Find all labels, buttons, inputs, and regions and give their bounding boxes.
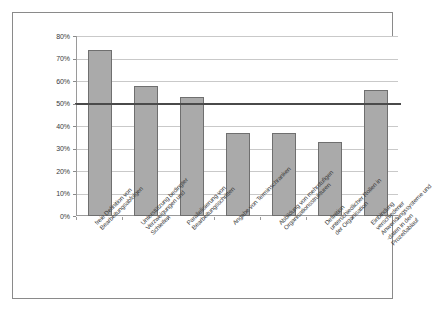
y-axis-tick-mark: [73, 59, 76, 60]
gridline: [77, 59, 398, 60]
y-axis-tick-mark: [73, 36, 76, 37]
y-axis-tick-mark: [73, 126, 76, 127]
x-axis-tick-mark: [76, 217, 77, 220]
y-axis-tick-label: 80%: [24, 33, 70, 40]
gridline: [77, 36, 398, 37]
y-axis-tick-label: 0%: [24, 213, 70, 220]
gridline: [77, 126, 398, 127]
x-axis-tick-mark: [214, 217, 215, 220]
threshold-50-line: [75, 103, 401, 105]
x-axis-tick-mark: [122, 217, 123, 220]
x-axis-tick-mark: [306, 217, 307, 220]
y-axis-tick-label: 60%: [24, 78, 70, 85]
y-axis-tick-label: 30%: [24, 145, 70, 152]
y-axis-tick-label: 70%: [24, 55, 70, 62]
y-axis-tick-mark: [73, 171, 76, 172]
gridline: [77, 81, 398, 82]
y-axis-tick-label: 50%: [24, 100, 70, 107]
y-axis-tick-mark: [73, 149, 76, 150]
bar: [88, 50, 112, 217]
y-axis-tick-label: 10%: [24, 190, 70, 197]
figure-frame: 0%10%20%30%40%50%60%70%80% freie Definit…: [12, 12, 393, 299]
bar: [226, 133, 250, 216]
y-axis-tick-label: 40%: [24, 123, 70, 130]
x-axis-tick-mark: [260, 217, 261, 220]
y-axis-tick-label: 20%: [24, 168, 70, 175]
y-axis-tick-mark: [73, 81, 76, 82]
y-axis-tick-mark: [73, 104, 76, 105]
y-axis-tick-mark: [73, 194, 76, 195]
